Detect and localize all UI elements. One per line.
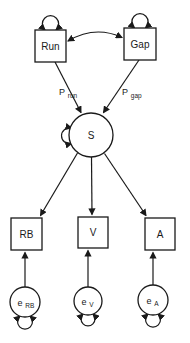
p-run-base: P xyxy=(59,87,65,97)
run-label: Run xyxy=(41,41,59,52)
gap-label: Gap xyxy=(131,39,150,50)
e-rb-sub: RB xyxy=(25,302,34,309)
p-run-sub: run xyxy=(68,92,78,99)
v-label: V xyxy=(90,227,97,238)
s-to-rb-arrow xyxy=(41,153,78,216)
e-v-sub: V xyxy=(89,301,94,308)
gap-variance-loop-arrow xyxy=(132,14,148,28)
run-variance-loop-arrow xyxy=(42,16,58,30)
run-gap-covariance-arrow xyxy=(68,32,122,41)
sem-path-diagram: Run Gap P run P gap S RB V A e RB e xyxy=(0,0,190,343)
e-a-base: e xyxy=(147,296,152,306)
s-label: S xyxy=(88,130,95,141)
rb-label: RB xyxy=(20,229,34,240)
e-v-base: e xyxy=(82,297,87,307)
e-a-variance-loop-arrow xyxy=(146,314,161,327)
e-a-sub: A xyxy=(154,300,159,307)
path-diagram-figure: Run Gap P run P gap S RB V A e RB e xyxy=(0,0,190,343)
p-gap-path-label: P gap xyxy=(122,86,142,100)
e-rb-variance-loop-arrow xyxy=(17,316,32,329)
p-gap-base: P xyxy=(122,87,128,97)
e-v-variance-loop-arrow xyxy=(81,314,95,326)
s-to-a-arrow xyxy=(105,154,147,216)
s-to-v-arrow xyxy=(92,157,93,215)
p-gap-sub: gap xyxy=(131,92,142,100)
e-rb-base: e xyxy=(18,298,23,308)
a-label: A xyxy=(157,229,164,240)
